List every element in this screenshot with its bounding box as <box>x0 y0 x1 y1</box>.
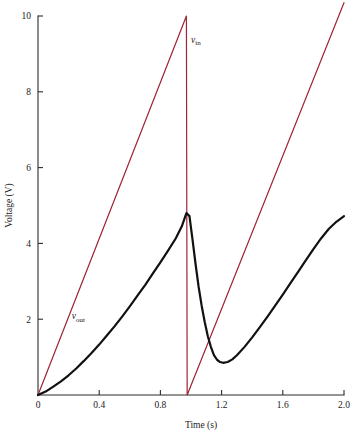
y-tick-label-2: 2 <box>26 315 31 325</box>
y-axis-tick-labels: 246810 <box>22 11 32 324</box>
annotation-v-in: vin <box>191 35 201 47</box>
series-annotations: vinvout <box>72 35 202 324</box>
y-tick-label-4: 4 <box>26 239 31 249</box>
x-tick-label-0: 0 <box>36 400 41 410</box>
x-axis-title: Time (s) <box>185 420 217 431</box>
annotation-label: vout <box>72 311 85 323</box>
annotation-v-out: vout <box>72 311 85 323</box>
plot-axes <box>38 16 344 395</box>
x-tick-label-0.4: 0.4 <box>93 400 105 410</box>
y-tick-label-6: 6 <box>26 163 31 173</box>
series-v_out <box>38 213 344 395</box>
annotation-label: vin <box>191 35 201 47</box>
x-tick-label-1.6: 1.6 <box>277 400 289 410</box>
voltage-vs-time-chart: 246810 00.40.81.21.62.0 vinvout Time (s)… <box>0 0 360 437</box>
x-tick-label-0.8: 0.8 <box>154 400 166 410</box>
x-tick-label-1.2: 1.2 <box>216 400 228 410</box>
data-series-group <box>38 3 344 395</box>
y-tick-label-8: 8 <box>26 87 31 97</box>
x-axis-ticks <box>99 390 344 395</box>
series-v_in <box>38 3 344 395</box>
x-tick-label-2.0: 2.0 <box>338 400 350 410</box>
y-tick-label-10: 10 <box>22 11 32 21</box>
x-axis-tick-labels: 00.40.81.21.62.0 <box>36 400 351 410</box>
y-axis-ticks <box>38 16 43 319</box>
y-axis-title: Voltage (V) <box>4 183 15 227</box>
figure-container: 246810 00.40.81.21.62.0 vinvout Time (s)… <box>0 0 360 437</box>
